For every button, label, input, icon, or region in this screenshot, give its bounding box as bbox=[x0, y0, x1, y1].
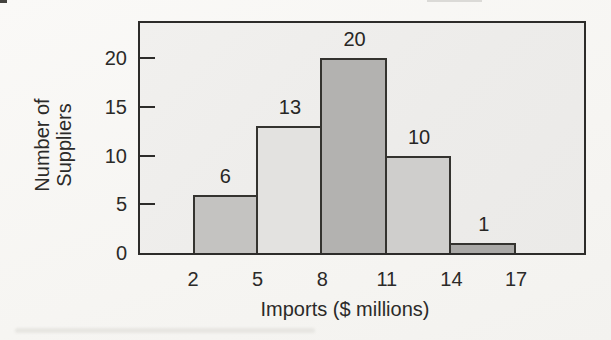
scan-artifact-bottom-smudge bbox=[15, 328, 315, 333]
bar-value-label: 13 bbox=[268, 96, 312, 118]
y-tick-label: 5 bbox=[85, 194, 127, 214]
y-tick-mark bbox=[140, 57, 155, 59]
scan-artifact-top-smudge bbox=[427, 0, 482, 2]
bar-value-label: 1 bbox=[462, 213, 506, 235]
x-axis-title: Imports ($ millions) bbox=[215, 297, 475, 321]
y-tick-mark bbox=[140, 203, 155, 205]
histogram-bar-14-17 bbox=[449, 243, 516, 253]
histogram-bar-11-14 bbox=[385, 156, 452, 253]
bar-value-label: 20 bbox=[333, 28, 377, 50]
x-tick-label: 11 bbox=[365, 268, 409, 290]
y-axis-title-line2: Suppliers bbox=[53, 70, 75, 220]
y-tick-label: 20 bbox=[85, 48, 127, 68]
y-tick-mark bbox=[140, 155, 155, 157]
x-tick-label: 17 bbox=[494, 268, 538, 290]
y-axis-title: Number of Suppliers bbox=[31, 70, 77, 220]
x-tick-label: 14 bbox=[429, 268, 473, 290]
y-tick-label: 0 bbox=[85, 243, 127, 263]
y-tick-mark bbox=[140, 106, 155, 108]
plot-inner: 61320101 bbox=[140, 23, 584, 253]
x-tick-label: 2 bbox=[171, 268, 215, 290]
x-tick-label: 8 bbox=[300, 268, 344, 290]
bar-value-label: 6 bbox=[203, 165, 247, 187]
histogram-bar-2-5 bbox=[193, 195, 258, 253]
y-tick-label: 15 bbox=[85, 97, 127, 117]
bar-value-label: 10 bbox=[397, 126, 441, 148]
plot-area: 61320101 bbox=[138, 21, 586, 255]
y-axis-title-line1: Number of bbox=[31, 70, 53, 220]
y-tick-label: 10 bbox=[85, 146, 127, 166]
scan-artifact-top-left bbox=[0, 0, 7, 3]
figure-page: Number of Suppliers 61320101 05101520258… bbox=[0, 0, 611, 340]
histogram-bar-5-8 bbox=[256, 126, 323, 253]
x-tick-label: 5 bbox=[236, 268, 280, 290]
histogram-bar-8-11 bbox=[320, 58, 387, 253]
